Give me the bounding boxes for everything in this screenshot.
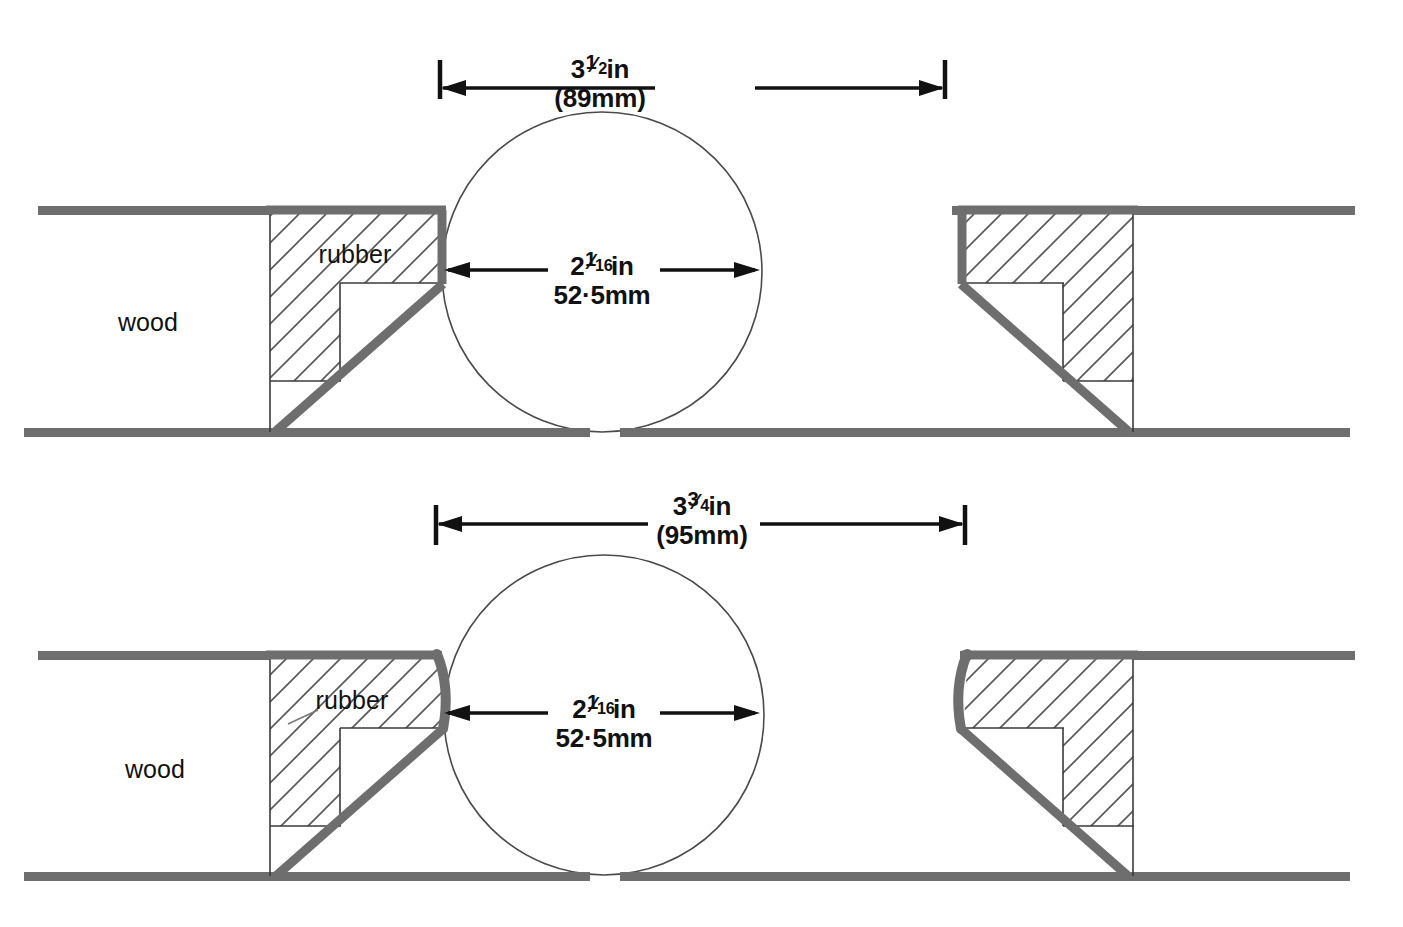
bottom-rubber-label: rubber — [316, 686, 389, 714]
fraction-one-sixteenth: 1⁄16 — [587, 698, 613, 718]
top-inner-dimension-metric: 52·5mm — [553, 281, 650, 310]
bottom-outer-dimension-inches: 33⁄4in — [656, 492, 747, 521]
fraction-three-quarters: 3⁄4 — [687, 495, 708, 515]
bottom-inner-dimension-label: 21⁄16in 52·5mm — [555, 695, 652, 753]
bottom-wood-label: wood — [125, 755, 185, 783]
bottom-outer-dimension-metric: (95mm) — [656, 521, 747, 550]
bottom-outer-dim-arrow-left — [437, 516, 462, 532]
fraction-one-sixteenth: 1⁄16 — [585, 255, 611, 275]
panel-top — [24, 60, 1355, 437]
bottom-outer-dimension-label: 33⁄4in (95mm) — [656, 492, 747, 550]
top-left-rail-lower — [24, 428, 590, 437]
top-outer-dim-arrow-left — [441, 80, 466, 96]
top-outer-dimension-inches: 31⁄2in — [554, 55, 645, 84]
top-outer-dimension-metric: (89mm) — [554, 84, 645, 113]
bottom-inner-dimension-metric: 52·5mm — [555, 724, 652, 753]
diagram-vector-layer — [0, 0, 1403, 927]
bottom-left-rail-lower — [24, 872, 590, 881]
fraction-one-half: 1⁄2 — [585, 58, 606, 78]
top-right-rail-lower — [620, 428, 1350, 437]
top-outer-dim-arrow-right — [919, 80, 944, 96]
top-rubber-label: rubber — [319, 240, 392, 268]
top-inner-dimension-label: 21⁄16in 52·5mm — [553, 252, 650, 310]
top-outer-dimension-label: 31⁄2in (89mm) — [554, 55, 645, 113]
panel-bottom — [24, 505, 1355, 881]
top-inner-dimension-inches: 21⁄16in — [553, 252, 650, 281]
bottom-outer-dim-arrow-right — [939, 516, 964, 532]
diagram-canvas: 31⁄2in (89mm) 21⁄16in 52·5mm wood rubber… — [0, 0, 1403, 927]
bottom-inner-dimension-inches: 21⁄16in — [555, 695, 652, 724]
top-outer-dimension-line — [440, 60, 945, 99]
top-wood-label: wood — [118, 308, 178, 336]
bottom-right-rail-lower — [620, 872, 1350, 881]
